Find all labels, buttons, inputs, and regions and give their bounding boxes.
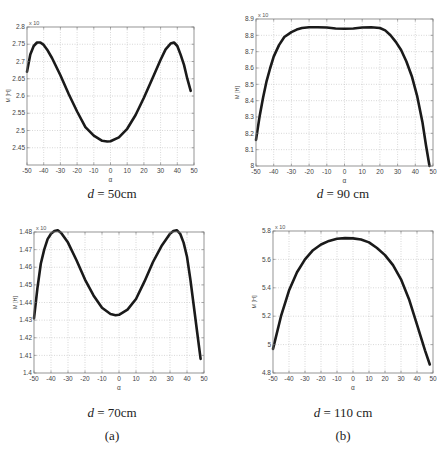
svg-text:4.8: 4.8 (262, 369, 271, 376)
svg-text:10: 10 (365, 375, 373, 382)
svg-text:-20: -20 (316, 375, 326, 382)
y-axis-label: M [H] (251, 295, 257, 309)
svg-text:-10: -10 (332, 375, 342, 382)
svg-text:-30: -30 (300, 375, 310, 382)
caption-value: = 70cm (97, 405, 136, 420)
caption-top-left: d = 50cm (87, 186, 136, 202)
svg-text:30: 30 (397, 375, 405, 382)
svg-text:5: 5 (267, 341, 271, 348)
caption-bottom-right: d = 110 cm (314, 405, 372, 421)
svg-text:40: 40 (413, 375, 421, 382)
caption-var: d (314, 405, 321, 420)
sublabel-b: (b) (335, 428, 350, 444)
sublabel-a: (a) (105, 428, 119, 444)
caption-value: = 50cm (97, 186, 136, 201)
caption-bottom-left: d = 70cm (87, 405, 136, 421)
caption-var: d (87, 405, 94, 420)
svg-text:5.6: 5.6 (262, 256, 271, 263)
x-axis-label: α (351, 384, 355, 391)
y-exponent-label: x 10 (275, 224, 285, 230)
svg-text:5.8: 5.8 (262, 227, 271, 234)
svg-text:50: 50 (429, 375, 437, 382)
caption-var: d (317, 186, 324, 201)
svg-text:0: 0 (351, 375, 355, 382)
caption-value: = 110 cm (324, 405, 373, 420)
plot-bottom-right: -50-40-30-20-10010203040504.855.25.45.65… (0, 0, 448, 400)
svg-text:5.2: 5.2 (262, 312, 271, 319)
caption-top-right: d = 90 cm (317, 186, 369, 202)
svg-text:-40: -40 (284, 375, 294, 382)
caption-var: d (87, 186, 94, 201)
caption-value: = 90 cm (327, 186, 370, 201)
svg-text:20: 20 (381, 375, 389, 382)
svg-text:5.4: 5.4 (262, 284, 271, 291)
